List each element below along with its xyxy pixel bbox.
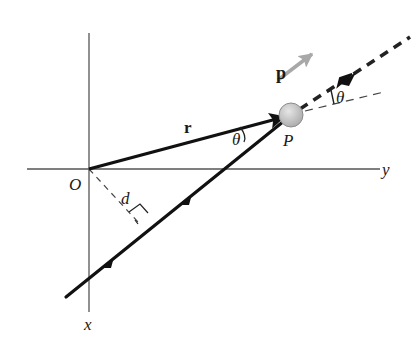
right-angle-marker xyxy=(129,204,148,224)
angle-label-particle: θ xyxy=(232,130,240,149)
position-vector-label: r xyxy=(184,118,192,137)
position-vector-extension xyxy=(305,92,384,111)
trajectory-extension xyxy=(300,37,410,109)
particle xyxy=(279,103,303,127)
y-axis-label: y xyxy=(380,160,390,179)
perpendicular-distance-line xyxy=(89,169,138,222)
angle-label-extension: θ xyxy=(336,88,344,107)
origin-label: O xyxy=(69,175,81,194)
distance-label: d xyxy=(121,189,130,208)
angle-arc-extension xyxy=(327,90,334,104)
momentum-vector-label: p xyxy=(276,63,286,83)
diagram-canvas: O x y r p P d θ θ xyxy=(0,0,414,355)
x-axis-label: x xyxy=(83,315,92,334)
particle-label: P xyxy=(282,131,293,150)
